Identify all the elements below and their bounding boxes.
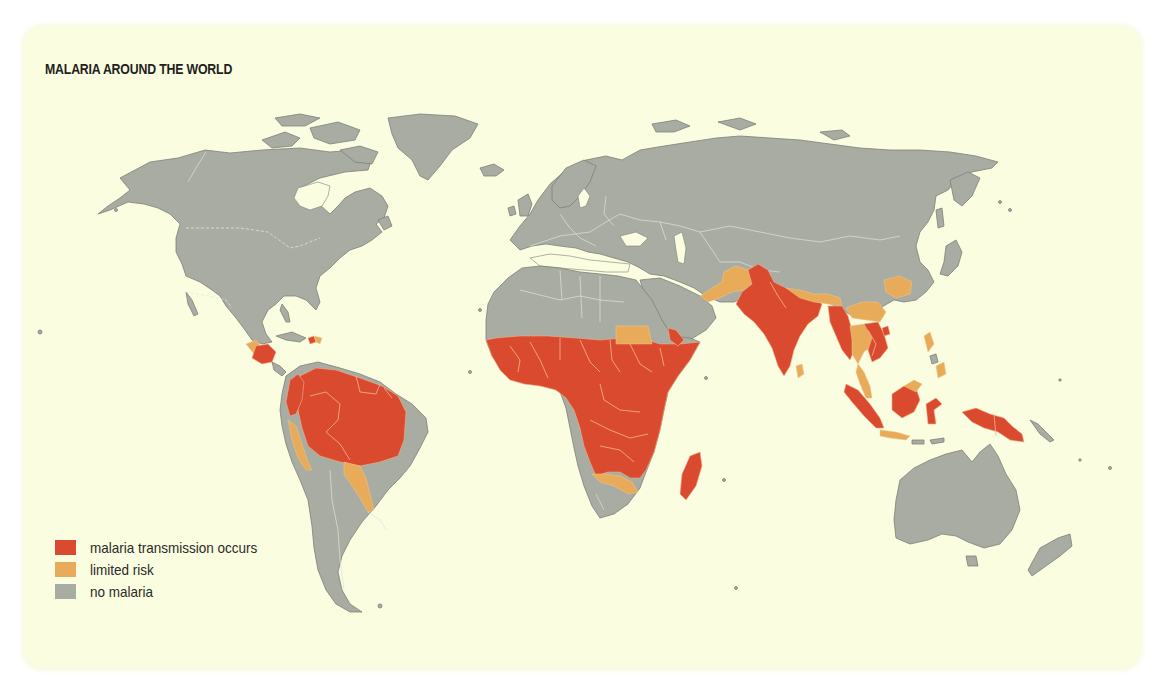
legend-label: limited risk <box>90 561 154 578</box>
swatch-transmission <box>55 540 76 555</box>
oceania <box>894 444 1072 576</box>
swatch-none <box>55 584 76 599</box>
legend-item-limited: limited risk <box>55 558 276 580</box>
south-america <box>280 362 428 612</box>
north-america <box>98 114 504 344</box>
legend-item-none: no malaria <box>55 580 276 602</box>
legend-label: no malaria <box>90 583 153 600</box>
legend-label: malaria transmission occurs <box>90 539 257 556</box>
swatch-limited <box>55 562 76 577</box>
legend: malaria transmission occurs limited risk… <box>55 536 276 602</box>
legend-item-transmission: malaria transmission occurs <box>55 536 276 558</box>
